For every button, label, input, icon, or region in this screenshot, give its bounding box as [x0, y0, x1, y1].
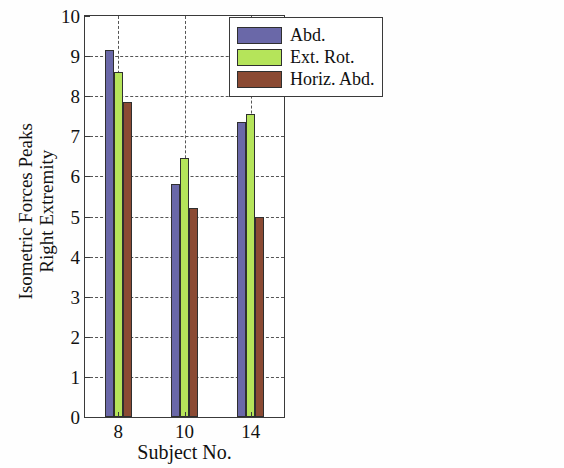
y-tick-mark [85, 417, 90, 418]
y-tick-label: 4 [71, 247, 81, 266]
bar [237, 122, 246, 417]
x-tick-label: 10 [175, 422, 194, 441]
y-tick-mark [85, 136, 90, 137]
x-tick-label: 14 [241, 422, 260, 441]
y-axis-title-right-extremity: Isometric Forces Peaks Right Extremity [15, 51, 58, 371]
figure-canvas: 01234567891081014 Subject No. Isometric … [0, 0, 564, 468]
legend-item: Abd. [237, 24, 375, 46]
y-tick-label: 9 [71, 47, 81, 66]
y-tick-mark [85, 377, 90, 378]
y-tick-mark [85, 257, 90, 258]
y-tick-label: 10 [61, 7, 80, 26]
y-tick-label: 6 [71, 167, 81, 186]
bar [171, 184, 180, 417]
y-tick-label: 0 [71, 408, 81, 427]
bar [180, 158, 189, 417]
y-tick-mark [85, 217, 90, 218]
chart-legend: Abd.Ext. Rot.Horiz. Abd. [229, 17, 383, 97]
y-tick-label: 2 [71, 327, 81, 346]
legend-label: Ext. Rot. [290, 48, 355, 66]
x-tick-label: 8 [113, 422, 123, 441]
x-tick-mark [251, 412, 252, 417]
y-tick-mark [85, 56, 90, 57]
legend-item: Horiz. Abd. [237, 68, 375, 90]
legend-item: Ext. Rot. [237, 46, 375, 68]
bar [123, 102, 132, 417]
bar [246, 114, 255, 417]
y-tick-mark [85, 337, 90, 338]
y-axis-title-line-1: Isometric Forces Peaks [15, 51, 36, 371]
legend-label: Abd. [290, 26, 326, 44]
y-axis-title-line-2: Right Extremity [36, 51, 57, 371]
legend-swatch [237, 27, 282, 44]
x-axis-title-right-extremity: Subject No. [84, 441, 285, 464]
y-tick-mark [85, 16, 90, 17]
legend-label: Horiz. Abd. [290, 70, 375, 88]
legend-swatch [237, 71, 282, 88]
x-tick-mark [118, 412, 119, 417]
bar [189, 208, 198, 417]
y-tick-label: 3 [71, 287, 81, 306]
y-tick-label: 8 [71, 87, 81, 106]
bar [114, 72, 123, 417]
y-tick-mark [85, 176, 90, 177]
y-tick-mark [85, 297, 90, 298]
y-tick-mark [85, 96, 90, 97]
y-tick-label: 1 [71, 367, 81, 386]
legend-swatch [237, 49, 282, 66]
y-tick-label: 5 [71, 207, 81, 226]
bar [105, 50, 114, 417]
x-tick-mark [185, 412, 186, 417]
bar [255, 217, 264, 418]
y-tick-label: 7 [71, 127, 81, 146]
